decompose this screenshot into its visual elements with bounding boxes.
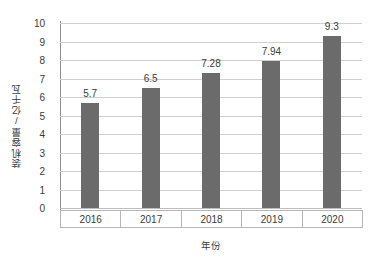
bar [142, 88, 160, 208]
y-axis-tick-label: 4 [39, 129, 45, 140]
x-axis-tick-label: 2019 [242, 210, 302, 228]
x-axis-tick-label: 2017 [121, 210, 181, 228]
gridline [60, 208, 362, 209]
y-axis-tick-label: 3 [39, 147, 45, 158]
bar [202, 73, 220, 208]
bar-value-label: 6.5 [144, 73, 158, 84]
y-axis-tick-label: 6 [39, 92, 45, 103]
bar-value-label: 9.3 [325, 21, 339, 32]
bar-value-label: 5.7 [83, 88, 97, 99]
y-axis-tick-label: 2 [39, 166, 45, 177]
bar [262, 61, 280, 208]
bar-value-label: 7.28 [201, 58, 220, 69]
bar [323, 36, 341, 208]
x-axis-tick-label: 2016 [61, 210, 121, 228]
y-axis-tick-label: 5 [39, 110, 45, 121]
y-axis-tick-label: 9 [39, 36, 45, 47]
x-axis-tick-label: 2020 [303, 210, 363, 228]
y-axis-tick-label: 1 [39, 184, 45, 195]
y-axis-tick-label: 7 [39, 73, 45, 84]
bar-chart: 装机容量/亿千瓦 109876543210 5.76.57.287.949.3 … [0, 0, 382, 266]
y-axis-tick-label: 8 [39, 55, 45, 66]
gridline [60, 23, 362, 24]
x-axis-tick-labels: 20162017201820192020 [60, 210, 363, 228]
y-axis-tick-labels: 109876543210 [24, 23, 50, 208]
y-axis-tick-label: 10 [34, 18, 45, 29]
bar [81, 103, 99, 208]
x-axis-tick-label: 2018 [182, 210, 242, 228]
y-axis-tick-label: 0 [39, 203, 45, 214]
plot-area: 5.76.57.287.949.3 [60, 23, 362, 208]
bar-value-label: 7.94 [262, 46, 281, 57]
x-axis-title: 年份 [60, 238, 362, 252]
gridline [60, 42, 362, 43]
